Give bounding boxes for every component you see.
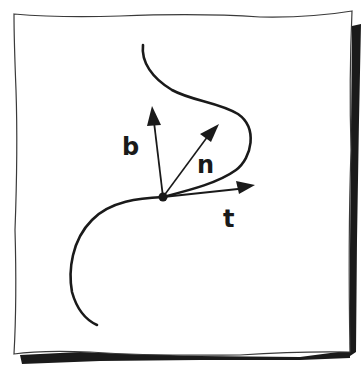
paper-sheet [14, 11, 352, 355]
curve-point [159, 193, 168, 202]
frenet-frame-diagram: b n t [0, 0, 362, 374]
label-tangent: t [223, 205, 234, 233]
label-binormal: b [122, 133, 139, 161]
paper-shadow-right [350, 24, 361, 356]
label-normal: n [197, 151, 214, 179]
